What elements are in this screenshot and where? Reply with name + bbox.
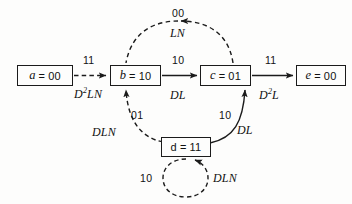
edge-c-to-b-output-label: LN [170,27,185,39]
state-node-c[interactable]: c = 01 [200,65,251,86]
state-b-name: b [120,68,129,83]
edge-d-self-loop [163,159,208,197]
state-a-value: 00 [45,70,61,82]
edge-d-to-c-output-label: DL [237,124,253,136]
state-node-e[interactable]: e = 00 [296,65,346,86]
state-b-equals: = [129,70,136,82]
edge-c-to-e-output-label: D2L [259,89,279,101]
state-diagram-canvas: a = 00 b = 10 c = 01 e = 00 d = 11 11 D2… [0,0,352,204]
state-node-a[interactable]: a = 00 [17,65,73,86]
edge-a-to-b-output-label: D2LN [74,88,102,100]
state-e-value: 00 [321,70,337,82]
state-c-equals: = [219,70,226,82]
edge-d-to-b-output-label: DLN [92,126,116,138]
edge-d-self-loop-output-label: DLN [213,172,237,184]
state-d-name: d [171,141,180,153]
state-b-value: 10 [136,70,152,82]
state-e-equals: = [314,70,321,82]
state-c-name: c [210,68,219,83]
edge-d-to-c-input-label: 10 [219,110,231,121]
state-e-name: e [305,68,314,83]
edge-a-to-b-input-label: 11 [83,55,95,66]
state-d-equals: = [180,141,187,153]
edge-d-self-loop-input-label: 10 [140,173,152,184]
state-node-d[interactable]: d = 11 [161,137,211,157]
state-d-value: 11 [187,141,202,153]
state-c-value: 01 [225,70,241,82]
edge-b-to-c-output-label: DL [170,89,186,101]
edge-c-to-e-input-label: 11 [265,55,277,66]
edge-d-to-b-input-label: 01 [131,110,143,121]
state-node-b[interactable]: b = 10 [110,65,161,86]
edge-c-to-b-input-label: 00 [172,8,184,19]
state-a-name: a [29,68,38,83]
edge-b-to-c-input-label: 10 [172,55,184,66]
state-a-equals: = [39,70,46,82]
